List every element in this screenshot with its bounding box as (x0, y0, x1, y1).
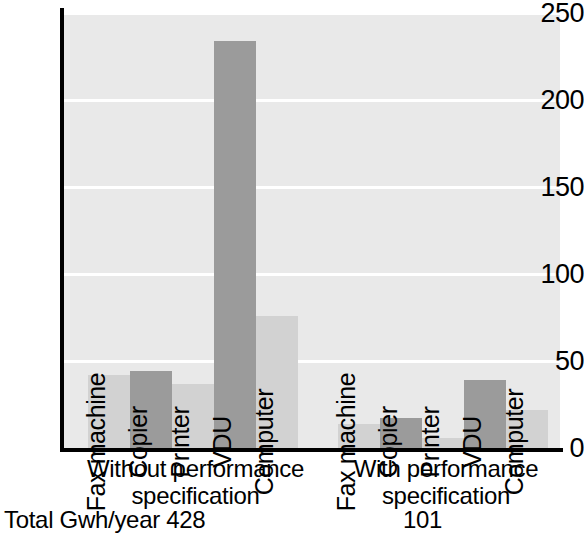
group-caption-without-line2: specification (68, 482, 323, 509)
y-tick-200: 200 (528, 87, 584, 114)
group-caption-with-line1: With performance (330, 455, 562, 482)
x-axis-line (60, 448, 563, 452)
bar-slot: Printer (172, 13, 214, 448)
bar-slot: Printer (422, 13, 464, 448)
bar-slot: Copier (130, 13, 172, 448)
bar-slot: VDU (214, 13, 256, 448)
y-tick-100: 100 (528, 261, 584, 288)
total-with: 101 (403, 506, 442, 533)
chart-root: Fax machineCopierPrinterVDUComputerFax m… (0, 0, 584, 536)
group-caption-with: With performance specification (330, 455, 562, 509)
group-caption-without: Without performance specification (68, 455, 323, 509)
bar-slot: Computer (506, 13, 548, 448)
y-axis-line (60, 8, 64, 450)
y-tick-250: 250 (528, 0, 584, 27)
group-caption-with-line2: specification (330, 482, 562, 509)
bar-slot: VDU (464, 13, 506, 448)
y-tick-50: 50 (528, 348, 584, 375)
bar-slot: Fax machine (338, 13, 380, 448)
bar-slot: Computer (256, 13, 298, 448)
bar-slot: Copier (380, 13, 422, 448)
group-caption-without-line1: Without performance (68, 455, 323, 482)
plot-area: Fax machineCopierPrinterVDUComputerFax m… (63, 13, 560, 448)
bar-slot: Fax machine (88, 13, 130, 448)
y-tick-150: 150 (528, 174, 584, 201)
bar-without-performance-specification-vdu[interactable] (214, 41, 256, 448)
total-without: Total Gwh/year 428 (4, 506, 205, 533)
